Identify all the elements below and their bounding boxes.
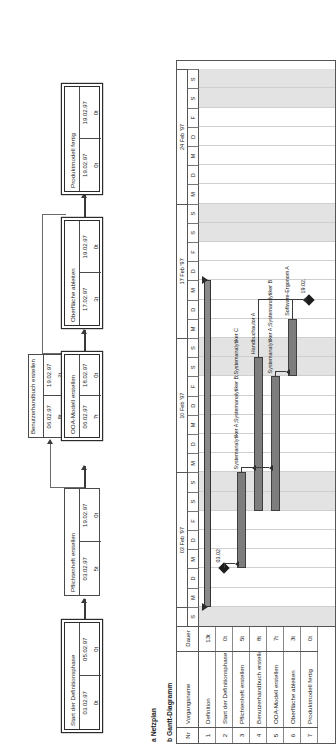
figure-page: Start der Definitionsphase 03.02.97 05.0…	[0, 0, 336, 744]
cell-duration: 0t	[301, 626, 318, 651]
arrow-to-oberflaeche	[81, 329, 87, 334]
netzplan-diagram: Start der Definitionsphase 03.02.97 05.0…	[0, 0, 168, 744]
node-late-start: 19.02.97	[80, 221, 90, 274]
node-dates-row: 06.02.97 18.02.97	[79, 355, 90, 437]
timescale-week	[177, 607, 188, 626]
table-row[interactable]: 4Benutzerhandbuch erstellen8t	[250, 627, 267, 743]
node-title: OOA-Modell erstellen	[65, 355, 79, 437]
timescale-week: 03 Feb '97	[177, 472, 188, 606]
arrow-to-benutzerhandbuch	[47, 439, 53, 444]
node-late-start: 19.02.97	[80, 87, 90, 140]
cell-name: Produktmodell fertig	[301, 651, 318, 727]
timescale-day: S	[188, 204, 199, 223]
timescale-day: M	[188, 184, 199, 203]
node-dates-row: 06.02.97 19.02.97	[43, 355, 54, 437]
node-float-row: 0t 0t	[90, 623, 101, 729]
grid-line	[199, 222, 335, 223]
table-row[interactable]: 1Definition13t	[199, 627, 216, 743]
node-title: Start der Definitionsphase	[65, 623, 79, 729]
node-early-start: 19.02.97	[80, 140, 90, 192]
arrow-to-pflichtenheft	[81, 598, 87, 603]
column-header-duration: Dauer	[177, 626, 199, 651]
cell-nr: 2	[216, 727, 233, 743]
node-early-start: 03.02.97	[80, 543, 90, 596]
netzplan-node-start[interactable]: Start der Definitionsphase 03.02.97 05.0…	[64, 622, 100, 730]
grid-line	[199, 471, 335, 472]
timescale-day: M	[188, 453, 199, 472]
node-title: Oberfläche ableiten	[65, 221, 79, 325]
caption-netzplan: a Netzplan	[150, 708, 157, 742]
timescale-day: D	[188, 530, 199, 549]
cell-duration: 5t	[233, 626, 250, 651]
gantt-summary-bar[interactable]	[204, 280, 211, 606]
timescale-day: M	[188, 588, 199, 607]
netzplan-node-oberflaeche[interactable]: Oberfläche ableiten 17.02.97 19.02.97 3t…	[64, 220, 100, 326]
table-row[interactable]: 7Produktmodell fertig0t	[301, 627, 318, 743]
netzplan-node-produktmodell[interactable]: Produktmodell fertig 19.02.97 19.02.97 0…	[64, 86, 100, 192]
dependency-link	[258, 300, 259, 358]
timescale-day: D	[188, 300, 199, 319]
timescale-day: S	[188, 338, 199, 357]
column-header-nr: Nr	[177, 727, 199, 743]
node-float-left: 0t	[90, 677, 101, 730]
cell-name: Oberfläche ableiten	[284, 651, 301, 727]
grid-line	[199, 260, 335, 261]
node-dates-row: 19.02.97 19.02.97	[79, 87, 90, 191]
summary-end-cap	[202, 276, 208, 284]
cell-nr: 1	[199, 727, 216, 743]
dependency-link	[224, 564, 225, 568]
timescale-day: D	[188, 261, 199, 280]
table-row[interactable]: 6Oberfläche ableiten3t	[284, 627, 301, 743]
cell-nr: 6	[284, 727, 301, 743]
connector-pflichtenheft-benutzer-h	[50, 440, 51, 488]
table-row[interactable]: 2Start der Definitionsphase0t	[216, 627, 233, 743]
gantt-task-bar[interactable]	[237, 472, 246, 568]
cell-duration: 3t	[284, 626, 301, 651]
table-row[interactable]: 5OOA-Modell erstellen7t	[267, 627, 284, 743]
cell-duration: 0t	[216, 626, 233, 651]
node-late-start: 19.02.97	[44, 355, 54, 397]
node-float-left: 0t	[90, 140, 101, 192]
dependency-arrow	[252, 465, 256, 471]
cell-name: Benutzerhandbuch erstellen	[250, 651, 267, 727]
timescale-day: S	[188, 357, 199, 376]
cell-name: Definition	[199, 651, 216, 727]
gantt-task-bar[interactable]	[288, 319, 297, 377]
node-late-start: 19.02.97	[80, 489, 90, 543]
node-float-row: 5t 0t	[90, 489, 101, 595]
timescale-week: 17 Feb '97	[177, 204, 188, 338]
cell-nr: 5	[267, 727, 284, 743]
grid-line	[199, 587, 335, 588]
timescale-day: D	[188, 165, 199, 184]
resource-label: Handbuchautor A	[250, 313, 256, 355]
node-dates-row: 03.02.97 05.02.97	[79, 623, 90, 729]
grid-line	[199, 183, 335, 184]
node-float-left: 7t	[90, 397, 101, 438]
resource-label: Systemanalytiker A;Systemanalytiker B	[267, 280, 273, 373]
cell-name: Start der Definitionsphase	[216, 651, 233, 727]
node-float-left: 5t	[90, 543, 101, 596]
dependency-link	[241, 468, 242, 472]
grid-line	[199, 433, 335, 434]
node-title: Benutzerhandbuch erstellen	[29, 355, 43, 437]
weekend-shading	[199, 69, 335, 88]
netzplan-node-pflichtenheft[interactable]: Pflichtenheft erstellen 03.02.97 19.02.9…	[64, 488, 100, 596]
node-float-right: 0t	[90, 489, 101, 543]
table-row[interactable]: 3Pflichtenheft erstellen5t	[233, 627, 250, 743]
node-dates-row: 17.02.97 19.02.97	[79, 221, 90, 325]
timescale-day: S	[188, 492, 199, 511]
gantt-task-bar[interactable]	[271, 376, 280, 510]
netzplan-node-ooa-modell[interactable]: OOA-Modell erstellen 06.02.97 18.02.97 7…	[64, 354, 100, 438]
netzplan-node-benutzerhandbuch[interactable]: Benutzerhandbuch erstellen 06.02.97 19.0…	[28, 354, 64, 438]
gantt-chart-area: S03 Feb '97MDMDFSS10 Feb '97MDMDFSS17 Fe…	[176, 60, 336, 626]
grid-line	[199, 395, 335, 396]
cell-duration: 7t	[267, 626, 284, 651]
grid-line	[199, 452, 335, 453]
timescale-day: M	[188, 549, 199, 568]
grid-line	[199, 375, 335, 376]
timescale-day: S	[188, 88, 199, 107]
timescale-week: 10 Feb '97	[177, 338, 188, 472]
timescale-day: M	[188, 146, 199, 165]
gantt-task-bar[interactable]	[254, 357, 263, 511]
dependency-link	[224, 563, 235, 564]
